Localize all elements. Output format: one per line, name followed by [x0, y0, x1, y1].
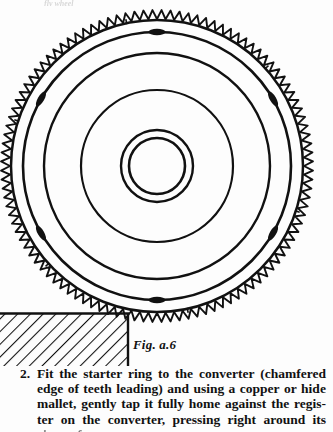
converter-disc-circle: [44, 53, 270, 279]
instruction-line-5: circumference: [37, 427, 326, 432]
bolt-mark: [34, 224, 48, 242]
hatched-support-block: [0, 313, 129, 366]
figure-starter-ring-diagram: [0, 0, 333, 366]
starter-ring-outer-circle: [11, 20, 303, 312]
bolt-mark: [266, 224, 280, 242]
ring-joint-tick: [126, 19, 127, 24]
instruction-line-4: terontheconverter,pressingrightaroundits: [37, 412, 326, 427]
instruction-line-3: mallet,gentlytapitfullyhomeagainstthereg…: [37, 396, 326, 411]
starter-ring-teeth: [1, 10, 313, 322]
starter-ring-inner-circle: [23, 32, 291, 300]
hub-outer-circle: [121, 130, 193, 202]
converter-register-circle: [81, 90, 233, 242]
instruction-item: 2. Fitthestarterringtotheconverter(chamf…: [0, 366, 333, 432]
starter-ring-illustration: [0, 0, 333, 366]
instruction-line-2: edgeofteethleading)andusingacopperorhide: [37, 381, 326, 396]
bolt-mark: [149, 29, 166, 35]
bolt-mark: [34, 90, 48, 108]
instruction-list: 2. Fitthestarterringtotheconverter(chamf…: [0, 366, 333, 432]
instruction-line-1: Fitthestarterringtotheconverter(chamfere…: [37, 366, 326, 381]
figure-caption: Fig. a.6: [133, 337, 176, 353]
hub-inner-circle: [129, 138, 185, 194]
bolt-mark: [266, 90, 280, 108]
instruction-number: 2.: [0, 366, 37, 381]
flywheel-gear-group: [1, 10, 313, 322]
support-block-hatching: [0, 313, 129, 366]
bolt-mark: [149, 297, 166, 303]
ring-joint-tick: [187, 308, 188, 313]
scanned-page: fly wheel Fig. a.6 2.: [0, 0, 333, 432]
instruction-text: Fitthestarterringtotheconverter(chamfere…: [37, 366, 333, 432]
